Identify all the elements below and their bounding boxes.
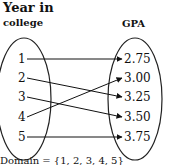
- domain-element: 1: [18, 52, 26, 66]
- range-element: 3.50: [124, 110, 151, 124]
- range-element: 3.75: [124, 130, 151, 144]
- mapping-diagram: Year in college GPA 1 2 3 4 5 2.75 3.00 …: [0, 0, 176, 165]
- mapping-svg: 1 2 3 4 5 2.75 3.00 3.25 3.50 3.75: [0, 0, 176, 165]
- range-element: 3.00: [124, 71, 151, 85]
- range-element: 3.25: [124, 90, 151, 104]
- domain-element: 4: [18, 110, 26, 124]
- domain-element: 5: [18, 130, 26, 144]
- domain-label: Domain = {1, 2, 3, 4, 5}: [0, 155, 124, 165]
- domain-element: 3: [18, 90, 26, 104]
- domain-element: 2: [18, 71, 26, 85]
- range-element: 2.75: [124, 52, 151, 66]
- arrow-2-to-3.25: [27, 78, 122, 97]
